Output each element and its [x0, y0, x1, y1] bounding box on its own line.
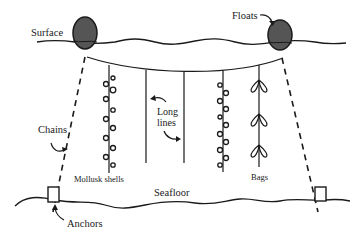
label-long-lines-2: lines	[157, 117, 176, 128]
float-right	[268, 20, 292, 50]
longline-diagram: Surface Floats Long lines Chains Mollusk…	[0, 0, 359, 241]
label-long-lines-1: Long	[157, 106, 178, 117]
mollusk-shells-1	[104, 76, 116, 167]
label-floats: Floats	[232, 10, 258, 21]
backbone-line	[87, 57, 283, 71]
anchor-left	[48, 187, 59, 202]
float-left	[73, 17, 97, 49]
floats-arrow	[260, 15, 272, 22]
anchor-right	[315, 187, 326, 201]
label-chains: Chains	[38, 124, 67, 135]
label-mollusk-shells: Mollusk shells	[74, 174, 124, 184]
longlines-arrow-down	[164, 131, 178, 139]
label-surface: Surface	[31, 27, 63, 38]
seafloor-line	[15, 198, 350, 209]
label-anchors: Anchors	[67, 218, 103, 229]
label-seafloor: Seafloor	[154, 187, 190, 198]
label-bags: Bags	[251, 172, 268, 182]
chain-right	[282, 58, 318, 212]
